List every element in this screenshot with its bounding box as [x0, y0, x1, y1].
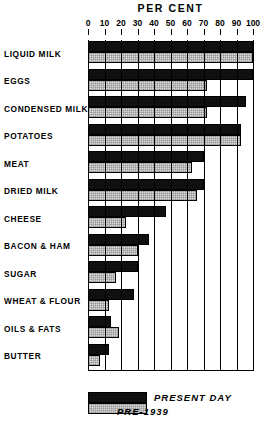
bar-present-day-2: [88, 96, 246, 107]
gridline-70: [204, 40, 205, 370]
category-label-cheese: CHEESE: [4, 205, 86, 233]
x-tick-label-80: 80: [215, 18, 224, 28]
bar-present-day-10: [88, 316, 111, 327]
gridline-80: [220, 40, 221, 370]
bar-present-day-8: [88, 261, 138, 272]
bar-pre-1939-1: [88, 80, 207, 91]
x-tick-mark-40: [154, 29, 155, 35]
x-tick-label-10: 10: [100, 18, 109, 28]
bar-pre-1939-9: [88, 300, 109, 311]
x-tick-mark-90: [237, 29, 238, 35]
bar-present-day-11: [88, 344, 109, 355]
bar-pre-1939-11: [88, 355, 100, 366]
x-tick-label-30: 30: [133, 18, 142, 28]
category-label-dried-milk: DRIED MILK: [4, 178, 86, 206]
x-tick-label-20: 20: [116, 18, 125, 28]
x-tick-mark-50: [171, 29, 172, 35]
x-tick-mark-10: [105, 29, 106, 35]
legend-label-present-day: PRESENT DAY: [154, 392, 232, 403]
category-label-potatoes: POTATOES: [4, 123, 86, 151]
chart-legend: PRESENT DAY PRE-1939: [88, 392, 268, 432]
bar-pre-1939-8: [88, 272, 116, 283]
bar-present-day-7: [88, 234, 149, 245]
gridline-50: [171, 40, 172, 370]
gridline-30: [138, 40, 139, 370]
bar-pre-1939-3: [88, 135, 241, 146]
x-tick-label-70: 70: [199, 18, 208, 28]
bar-pre-1939-2: [88, 107, 207, 118]
x-axis: 0102030405060708090100: [88, 18, 253, 38]
gridline-60: [187, 40, 188, 370]
gridline-20: [121, 40, 122, 370]
category-labels: LIQUID MILKEGGSCONDENSED MILKPOTATOESMEA…: [0, 40, 86, 370]
category-label-meat: MEAT: [4, 150, 86, 178]
x-tick-label-90: 90: [232, 18, 241, 28]
x-tick-label-50: 50: [166, 18, 175, 28]
chart-title: PER CENT: [88, 2, 253, 14]
bar-present-day-3: [88, 124, 241, 135]
plot-area: [88, 40, 253, 370]
gridline-40: [154, 40, 155, 370]
gridline-10: [105, 40, 106, 370]
category-label-eggs: EGGS: [4, 68, 86, 96]
x-tick-label-100: 100: [246, 18, 260, 28]
gridline-100: [253, 40, 254, 370]
category-label-butter: BUTTER: [4, 343, 86, 371]
x-tick-label-0: 0: [86, 18, 91, 28]
x-tick-label-60: 60: [182, 18, 191, 28]
category-label-oils-fats: OILS & FATS: [4, 315, 86, 343]
axis-baseline: [88, 370, 254, 371]
x-tick-mark-70: [204, 29, 205, 35]
category-label-condensed-milk: CONDENSED MILK: [4, 95, 86, 123]
x-tick-mark-20: [121, 29, 122, 35]
category-label-liquid-milk: LIQUID MILK: [4, 40, 86, 68]
chart-root: PER CENT 0102030405060708090100 LIQUID M…: [0, 0, 268, 436]
category-label-sugar: SUGAR: [4, 260, 86, 288]
gridline-90: [237, 40, 238, 370]
legend-swatch-present-day: [88, 392, 147, 403]
gridline-0: [88, 40, 89, 370]
category-label-bacon-ham: BACON & HAM: [4, 233, 86, 261]
x-tick-mark-60: [187, 29, 188, 35]
bar-pre-1939-7: [88, 245, 138, 256]
x-tick-mark-80: [220, 29, 221, 35]
category-label-wheat-flour: WHEAT & FLOUR: [4, 288, 86, 316]
bar-present-day-9: [88, 289, 134, 300]
x-tick-mark-0: [88, 29, 89, 35]
legend-label-pre-1939: PRE-1939: [117, 406, 169, 417]
x-tick-mark-100: [253, 29, 254, 35]
x-tick-label-40: 40: [149, 18, 158, 28]
x-tick-mark-30: [138, 29, 139, 35]
